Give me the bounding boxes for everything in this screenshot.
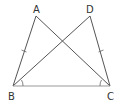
label-c: C [107, 91, 114, 102]
label-d: D [86, 4, 94, 15]
label-b: B [8, 91, 15, 102]
angle-mark-b [22, 80, 24, 86]
geometry-diagram: A D B C [0, 0, 115, 102]
segment-ac [36, 16, 110, 86]
label-a: A [33, 4, 40, 15]
tick-mark-dc [99, 50, 104, 52]
angle-mark-c [100, 80, 102, 86]
